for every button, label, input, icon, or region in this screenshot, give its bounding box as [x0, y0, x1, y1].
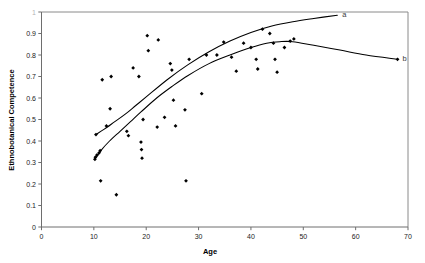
- data-point: [273, 57, 277, 61]
- data-point: [114, 193, 118, 197]
- y-tick-label: 0.3: [26, 159, 36, 166]
- data-point: [275, 70, 279, 74]
- plot-frame: [42, 12, 409, 227]
- data-point: [140, 156, 144, 160]
- data-point: [288, 39, 292, 43]
- data-point: [249, 46, 253, 50]
- y-tick-label: 0.2: [26, 181, 36, 188]
- y-tick-label: 0.8: [26, 52, 36, 59]
- data-point: [145, 34, 149, 38]
- data-point: [242, 41, 246, 45]
- x-tick-label: 10: [90, 233, 98, 240]
- data-point: [187, 57, 191, 61]
- data-point: [109, 75, 113, 79]
- data-point: [283, 46, 287, 50]
- data-point: [125, 129, 129, 133]
- data-point: [156, 38, 160, 42]
- x-tick-label: 40: [247, 233, 255, 240]
- x-axis-title: Age: [203, 247, 217, 256]
- x-tick-label: 50: [299, 233, 307, 240]
- data-point: [254, 57, 258, 61]
- data-point: [268, 32, 272, 36]
- y-tick-label: 0.7: [26, 73, 36, 80]
- data-point: [100, 78, 104, 82]
- data-point: [99, 179, 103, 183]
- data-point: [108, 107, 112, 111]
- scatter-plot: 01020304050607000.10.20.30.40.50.60.70.8…: [0, 0, 425, 263]
- y-tick-label: 1: [32, 9, 36, 16]
- y-tick-label: 0.6: [26, 95, 36, 102]
- data-point: [163, 115, 167, 119]
- data-point: [170, 68, 174, 72]
- data-point: [137, 75, 141, 79]
- data-point: [230, 55, 234, 59]
- axis-tick-labels: 01020304050607000.10.20.30.40.50.60.70.8…: [26, 9, 412, 240]
- data-point: [146, 49, 150, 53]
- data-point: [131, 66, 135, 70]
- y-tick-label: 0.9: [26, 30, 36, 37]
- data-point: [174, 124, 178, 128]
- data-point: [168, 62, 172, 66]
- x-tick-label: 60: [352, 233, 360, 240]
- data-point: [396, 57, 400, 61]
- data-point: [234, 69, 238, 73]
- trend-curves: [95, 15, 398, 159]
- x-tick-label: 0: [40, 233, 44, 240]
- data-point: [292, 37, 296, 41]
- data-point: [184, 179, 188, 183]
- x-tick-label: 20: [142, 233, 150, 240]
- curve-labels: ab: [342, 10, 406, 63]
- data-point: [139, 140, 143, 144]
- data-point: [155, 125, 159, 129]
- x-tick-label: 30: [195, 233, 203, 240]
- data-point: [172, 98, 176, 102]
- data-point: [140, 148, 144, 152]
- y-axis-title: Ethnobotanical Competence: [7, 69, 16, 170]
- data-point: [183, 108, 187, 112]
- data-point: [200, 92, 204, 96]
- trend-curve-a: [96, 15, 337, 134]
- y-tick-label: 0.5: [26, 116, 36, 123]
- y-tick-label: 0.4: [26, 138, 36, 145]
- data-point: [256, 67, 260, 71]
- x-tick-label: 70: [404, 233, 412, 240]
- data-point: [215, 53, 219, 57]
- chart-figure: 01020304050607000.10.20.30.40.50.60.70.8…: [0, 0, 425, 263]
- y-tick-label: 0: [32, 224, 36, 231]
- y-tick-label: 0.1: [26, 202, 36, 209]
- data-point: [141, 118, 145, 122]
- curve-label-b: b: [403, 54, 407, 63]
- data-point: [127, 134, 131, 138]
